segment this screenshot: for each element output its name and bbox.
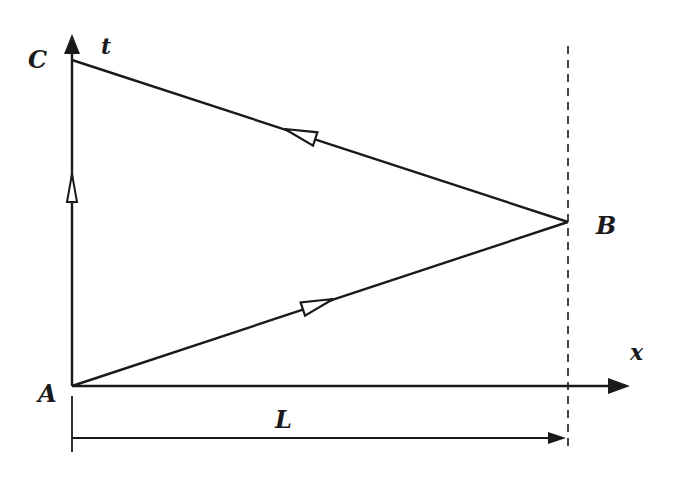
spacetime-diagram: t x C B A L: [0, 0, 674, 482]
point-b-label: B: [595, 211, 616, 240]
dimension-arrowhead-icon: [548, 432, 566, 444]
t-axis: [64, 34, 80, 386]
worldline-b-to-c: [72, 60, 568, 222]
point-a-label: A: [36, 379, 57, 408]
direction-arrow-ab-icon: [301, 292, 336, 315]
direction-arrow-t-axis-icon: [67, 174, 77, 202]
t-axis-arrowhead-icon: [64, 34, 80, 54]
dimension-line-l: [72, 396, 566, 452]
dimension-label: L: [274, 405, 292, 434]
point-c-label: C: [28, 45, 47, 74]
x-axis: [72, 378, 630, 394]
t-axis-label: t: [101, 33, 111, 59]
x-axis-label: x: [629, 339, 644, 365]
x-axis-arrowhead-icon: [608, 378, 630, 394]
direction-arrow-bc-icon: [283, 122, 318, 145]
